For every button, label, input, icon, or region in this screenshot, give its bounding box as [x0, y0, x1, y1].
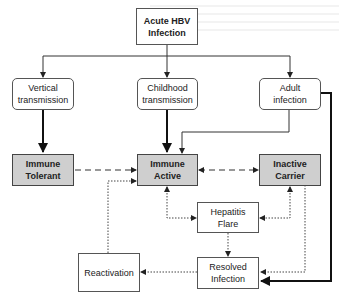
- node-label: Acute HBV Infection: [144, 15, 191, 39]
- node-resolved-infection: Resolved Infection: [197, 257, 259, 289]
- node-reactivation: Reactivation: [78, 253, 140, 292]
- node-acute-hbv-infection: Acute HBV Infection: [136, 8, 198, 45]
- node-adult-infection: Adult infection: [259, 78, 321, 110]
- node-label: Adult infection: [273, 82, 307, 106]
- node-childhood-transmission: Childhood transmission: [137, 78, 198, 110]
- node-label: Vertical transmission: [18, 82, 69, 106]
- node-label: Inactive Carrier: [273, 158, 307, 182]
- node-hepatitis-flare: Hepatitis Flare: [197, 202, 259, 233]
- node-inactive-carrier: Inactive Carrier: [259, 154, 321, 186]
- node-immune-tolerant: Immune Tolerant: [12, 154, 74, 186]
- node-vertical-transmission: Vertical transmission: [12, 78, 74, 110]
- edge-acute-branches: [43, 45, 290, 77]
- edge-adult-to-active: [182, 110, 289, 153]
- diagram-connectors: [0, 0, 339, 300]
- node-label: Immune Active: [150, 158, 185, 182]
- node-immune-active: Immune Active: [137, 154, 198, 186]
- node-label: Resolved Infection: [209, 261, 247, 285]
- node-label: Immune Tolerant: [26, 158, 61, 182]
- node-label: Hepatitis Flare: [210, 206, 245, 230]
- node-label: Childhood transmission: [142, 82, 193, 106]
- node-label: Reactivation: [84, 267, 134, 279]
